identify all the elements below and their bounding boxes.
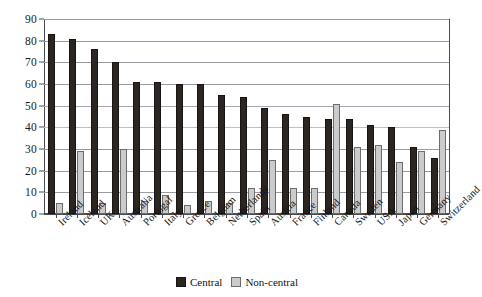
y-axis-tick-label: 70 xyxy=(25,56,37,68)
bar-central xyxy=(69,39,76,215)
legend-label: Non-central xyxy=(245,276,298,288)
x-axis-label-slot: Iceland xyxy=(66,215,87,273)
bar-central xyxy=(240,97,247,214)
bar-central xyxy=(388,127,395,214)
bar-group xyxy=(407,19,428,214)
bar-group xyxy=(343,19,364,214)
y-axis-tick-label: 10 xyxy=(25,186,37,198)
bar-central xyxy=(112,62,119,214)
y-axis-tick-label: 90 xyxy=(25,13,37,25)
bar-central xyxy=(91,49,98,214)
x-axis-label-slot: Finland xyxy=(300,215,321,273)
bar-group xyxy=(45,19,66,214)
x-axis-label-slot: Australia xyxy=(109,215,130,273)
bar-group xyxy=(321,19,342,214)
x-axis-label-slot: France xyxy=(279,215,300,273)
bar-group xyxy=(173,19,194,214)
x-axis-label-slot: Spain xyxy=(236,215,257,273)
y-axis-tick-label: 20 xyxy=(25,165,37,177)
bar-group xyxy=(151,19,172,214)
y-axis-tick-label: 0 xyxy=(31,208,37,220)
x-axis-labels: IrelandIcelandUKAustraliaPortugalItalyGr… xyxy=(45,215,449,273)
x-axis-label-slot: Greece xyxy=(173,215,194,273)
chart-legend: CentralNon-central xyxy=(0,276,474,288)
bar-group xyxy=(88,19,109,214)
bar-group xyxy=(428,19,449,214)
x-axis-label-slot: Sweden xyxy=(343,215,364,273)
x-axis-label-slot: USA xyxy=(364,215,385,273)
bar-group xyxy=(364,19,385,214)
y-axis-tick-label: 60 xyxy=(25,78,37,90)
bars-container xyxy=(45,19,449,214)
bar-group xyxy=(194,19,215,214)
bar-noncentral xyxy=(120,149,127,214)
bar-group xyxy=(279,19,300,214)
bar-central xyxy=(176,84,183,214)
bar-noncentral xyxy=(396,162,403,214)
y-axis-tick-label: 40 xyxy=(25,121,37,133)
bar-group xyxy=(215,19,236,214)
bar-group xyxy=(109,19,130,214)
legend-entry: Central xyxy=(176,276,222,288)
bar-group xyxy=(300,19,321,214)
x-axis-label-slot: Ireland xyxy=(45,215,66,273)
bar-noncentral xyxy=(418,151,425,214)
y-axis-tick-label: 50 xyxy=(25,100,37,112)
x-axis-label-slot: Italy xyxy=(151,215,172,273)
bar-group xyxy=(236,19,257,214)
bar-central xyxy=(133,82,140,214)
central-swatch-icon xyxy=(176,277,186,287)
x-axis-label-slot: Austria xyxy=(258,215,279,273)
y-axis-tick-label: 30 xyxy=(25,143,37,155)
x-axis-label-slot: Canada xyxy=(321,215,342,273)
bar-group xyxy=(66,19,87,214)
legend-entry: Non-central xyxy=(231,276,298,288)
bar-central xyxy=(218,95,225,214)
noncentral-swatch-icon xyxy=(231,277,241,287)
x-axis-label-slot: Netherlands xyxy=(215,215,236,273)
x-axis-label-slot: Switzerland xyxy=(428,215,449,273)
x-axis-label-slot: Germany xyxy=(407,215,428,273)
y-axis-tick-label: 80 xyxy=(25,35,37,47)
x-axis-label-slot: UK xyxy=(88,215,109,273)
x-axis-label-slot: Portugal xyxy=(130,215,151,273)
x-axis-label-slot: Belgium xyxy=(194,215,215,273)
bar-central xyxy=(197,84,204,214)
x-axis-label-slot: Japan xyxy=(385,215,406,273)
bar-central xyxy=(48,34,55,214)
bar-central xyxy=(154,82,161,214)
bar-group xyxy=(130,19,151,214)
legend-label: Central xyxy=(190,276,222,288)
y-axis: 0102030405060708090 xyxy=(0,19,44,214)
bar-group xyxy=(385,19,406,214)
bar-noncentral xyxy=(269,160,276,214)
